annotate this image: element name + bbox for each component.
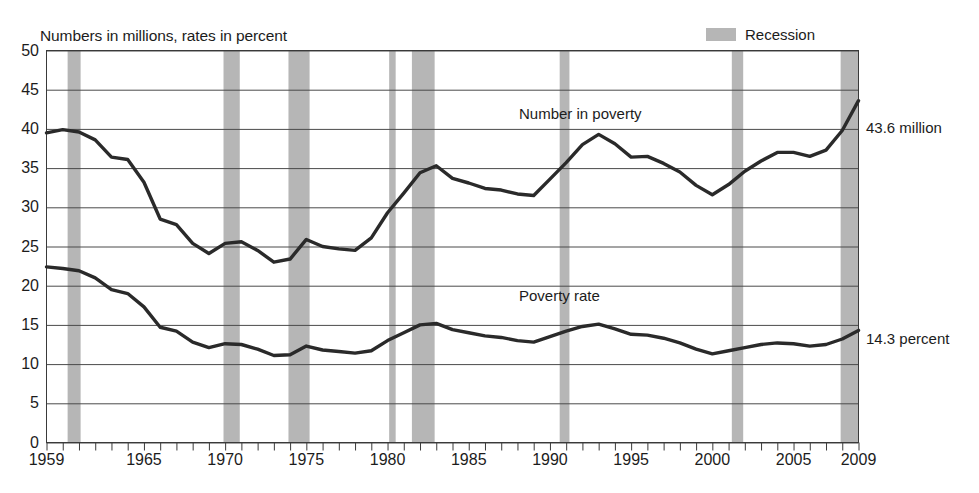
x-axis-tick-label: 1995: [613, 451, 649, 469]
x-axis-tick-label: 1980: [370, 451, 406, 469]
annotation-number-in-poverty: Number in poverty: [519, 105, 642, 122]
x-axis-tick-label: 2000: [695, 451, 731, 469]
x-axis-tick-label: 1975: [289, 451, 325, 469]
poverty-chart-figure: Numbers in millions, rates in percent Re…: [0, 0, 979, 493]
x-axis-tick-label: 1965: [126, 451, 162, 469]
x-axis-tick-label: 1970: [207, 451, 243, 469]
x-axis-tick-label: 1990: [532, 451, 568, 469]
x-axis-tick-label: 1985: [451, 451, 487, 469]
x-axis-tick-label: 2005: [776, 451, 812, 469]
x-axis-tick-label: 1959: [29, 451, 65, 469]
x-axis-tick-label: 2009: [841, 451, 877, 469]
annotation-poverty-rate: Poverty rate: [519, 287, 600, 304]
end-label-poverty-rate: 14.3 percent: [866, 330, 949, 347]
end-label-number-in-poverty: 43.6 million: [866, 119, 942, 136]
x-axis-labels: 1959196519701975198019851990199520002005…: [0, 0, 979, 493]
